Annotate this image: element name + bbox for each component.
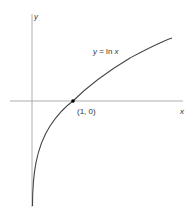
curve-label: y = ln x [92,47,120,56]
point-label: (1, 0) [77,107,96,116]
ln-curve [33,38,173,206]
point-1-0 [71,99,75,103]
ln-graph: y x (1, 0) y = ln x [0,0,195,217]
x-axis-label: x [179,107,185,116]
y-axis-label: y [33,12,39,21]
